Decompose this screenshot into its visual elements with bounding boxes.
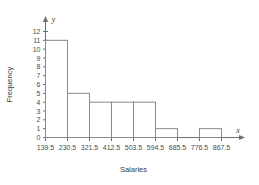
y-axis-tick-label: 1 [37,125,41,132]
histogram-bar [90,102,112,137]
x-axis-tick-label: 867.5 [213,144,231,151]
y-axis-symbol-label: y [51,15,56,24]
histogram-bar [68,93,90,137]
histogram-bar [156,129,178,138]
histogram-chart: yx0123456789101112139.5230.5321.5412.550… [0,0,259,185]
x-axis-symbol-label: x [235,126,240,135]
histogram-bar [200,129,222,138]
chart-canvas: yx0123456789101112139.5230.5321.5412.550… [0,0,259,185]
x-axis-tick-label: 776.5 [191,144,209,151]
y-axis-tick-label: 12 [33,28,41,35]
y-axis-arrow-icon [43,16,48,22]
x-axis-tick-label: 139.5 [37,144,55,151]
y-axis-tick-label: 11 [33,37,40,44]
x-axis-tick-label: 412.5 [103,144,121,151]
y-axis-tick-label: 2 [37,116,41,123]
histogram-bar [112,102,134,137]
y-axis-tick-label: 6 [37,81,41,88]
histogram-bar [46,40,68,137]
x-axis-tick-label: 685.5 [169,144,187,151]
y-axis-tick-label: 3 [37,108,41,115]
y-axis-title: Frequency [5,67,14,103]
y-axis-tick-label: 5 [37,90,41,97]
x-axis-tick-label: 230.5 [59,144,77,151]
x-axis-arrow-icon [239,135,245,140]
y-axis-tick-label: 10 [33,46,41,53]
y-axis-tick-label: 8 [37,63,41,70]
x-axis-title: Salaries [120,165,147,174]
y-axis-tick-label: 0 [37,134,41,141]
x-axis-tick-label: 594.5 [147,144,165,151]
y-axis-tick-label: 4 [37,99,41,106]
y-axis-tick-label: 7 [37,72,41,79]
y-axis-tick-label: 9 [37,55,41,62]
x-axis-tick-label: 321.5 [81,144,99,151]
x-axis-tick-label: 503.5 [125,144,143,151]
histogram-bar [134,102,156,137]
